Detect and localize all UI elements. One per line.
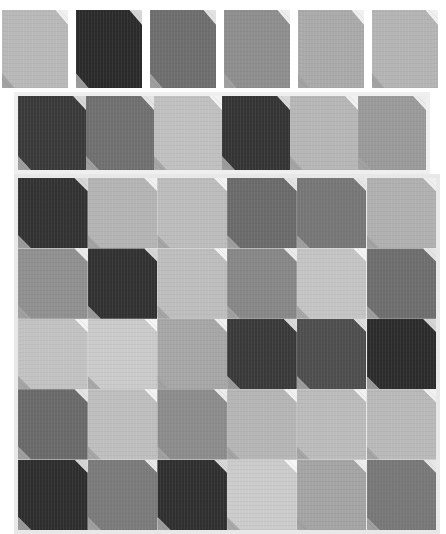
tile-r2c3[interactable] xyxy=(157,248,227,318)
tile-face xyxy=(227,319,297,389)
tile-face xyxy=(297,248,367,318)
tile-r4c5[interactable] xyxy=(297,389,367,459)
tile-face xyxy=(297,178,367,248)
tile-r4c3[interactable] xyxy=(157,389,227,459)
tile-r2c4[interactable] xyxy=(227,248,297,318)
tile-face xyxy=(18,389,88,459)
tile-r3c3[interactable] xyxy=(157,319,227,389)
main-swatch-grid xyxy=(0,0,446,534)
tile-face xyxy=(367,319,437,389)
tile-r4c4[interactable] xyxy=(227,389,297,459)
tile-r1c6[interactable] xyxy=(367,178,437,248)
tile-face xyxy=(157,178,227,248)
tile-r5c6[interactable] xyxy=(367,460,437,530)
tile-r3c1[interactable] xyxy=(18,319,88,389)
tile-face xyxy=(18,178,88,248)
tile-r2c5[interactable] xyxy=(297,248,367,318)
tile-face xyxy=(157,319,227,389)
tile-r5c5[interactable] xyxy=(297,460,367,530)
tile-r5c4[interactable] xyxy=(227,460,297,530)
tile-face xyxy=(157,460,227,530)
tile-face xyxy=(367,178,437,248)
tile-r3c4[interactable] xyxy=(227,319,297,389)
tile-face xyxy=(367,248,437,318)
tile-face xyxy=(227,460,297,530)
tile-face xyxy=(297,389,367,459)
tile-face xyxy=(367,460,437,530)
tile-face xyxy=(297,319,367,389)
tile-r4c1[interactable] xyxy=(18,389,88,459)
tile-r3c2[interactable] xyxy=(88,319,158,389)
tile-r2c2[interactable] xyxy=(88,248,158,318)
tile-face xyxy=(18,319,88,389)
tile-face xyxy=(367,389,437,459)
tile-face xyxy=(18,248,88,318)
tile-face xyxy=(227,389,297,459)
tile-swatch-canvas xyxy=(0,0,446,534)
tile-r5c2[interactable] xyxy=(88,460,158,530)
tile-r1c4[interactable] xyxy=(227,178,297,248)
tile-face xyxy=(88,460,158,530)
tile-face xyxy=(88,248,158,318)
tile-r3c5[interactable] xyxy=(297,319,367,389)
tile-face xyxy=(88,389,158,459)
tile-r1c5[interactable] xyxy=(297,178,367,248)
tile-face xyxy=(227,178,297,248)
tile-r3c6[interactable] xyxy=(367,319,437,389)
tile-face xyxy=(88,319,158,389)
tile-r4c2[interactable] xyxy=(88,389,158,459)
tile-r5c1[interactable] xyxy=(18,460,88,530)
tile-face xyxy=(157,389,227,459)
tile-r1c3[interactable] xyxy=(157,178,227,248)
tile-r2c6[interactable] xyxy=(367,248,437,318)
tile-r4c6[interactable] xyxy=(367,389,437,459)
tile-face xyxy=(18,460,88,530)
tile-face xyxy=(88,178,158,248)
tile-r2c1[interactable] xyxy=(18,248,88,318)
tile-r1c1[interactable] xyxy=(18,178,88,248)
tile-face xyxy=(227,248,297,318)
tile-face xyxy=(297,460,367,530)
tile-face xyxy=(157,248,227,318)
tile-r5c3[interactable] xyxy=(157,460,227,530)
tile-r1c2[interactable] xyxy=(88,178,158,248)
